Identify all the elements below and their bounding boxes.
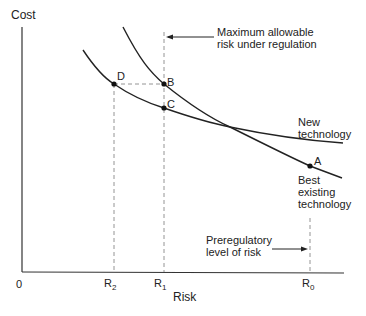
- tick-r1-sub: 1: [162, 283, 166, 292]
- y-axis-label: Cost: [11, 9, 36, 21]
- max-allowable-line-1: Maximum allowable: [217, 26, 317, 38]
- tick-r0: R0: [302, 277, 314, 294]
- tick-r1: R1: [154, 277, 166, 294]
- preregulatory-annotation: Preregulatory level of risk: [206, 234, 272, 258]
- best-existing-line-1: Best: [298, 174, 351, 186]
- max-allowable-line-2: risk under regulation: [217, 38, 317, 50]
- best-existing-line-3: technology: [298, 198, 351, 210]
- tick-r2: R2: [104, 277, 116, 294]
- origin-label: 0: [16, 278, 22, 290]
- point-d-label: D: [117, 70, 125, 82]
- tick-r2-name: R: [104, 277, 112, 289]
- preregulatory-arrowhead-icon: [301, 247, 308, 252]
- tick-r2-sub: 2: [112, 283, 116, 292]
- point-a-marker: [307, 163, 312, 168]
- point-c-label: C: [167, 98, 175, 110]
- max-allowable-arrowhead-icon: [166, 35, 173, 40]
- point-b-label: B: [167, 76, 174, 88]
- new-technology-line-2: technology: [298, 128, 351, 140]
- max-allowable-annotation: Maximum allowable risk under regulation: [217, 26, 317, 50]
- tick-r0-name: R: [302, 277, 310, 289]
- preregulatory-line-2: level of risk: [206, 246, 272, 258]
- x-axis-label: Risk: [173, 291, 196, 303]
- x-axis: [22, 272, 344, 273]
- new-technology-line-1: New: [298, 116, 351, 128]
- point-b-marker: [161, 81, 166, 86]
- tick-r1-name: R: [154, 277, 162, 289]
- new-technology-label: New technology: [298, 116, 351, 140]
- best-existing-technology-label: Best existing technology: [298, 174, 351, 210]
- point-d-marker: [111, 81, 116, 86]
- tick-r0-sub: 0: [310, 283, 314, 292]
- preregulatory-line-1: Preregulatory: [206, 234, 272, 246]
- point-a-label: A: [314, 155, 321, 167]
- best-existing-line-2: existing: [298, 186, 351, 198]
- point-c-marker: [161, 105, 166, 110]
